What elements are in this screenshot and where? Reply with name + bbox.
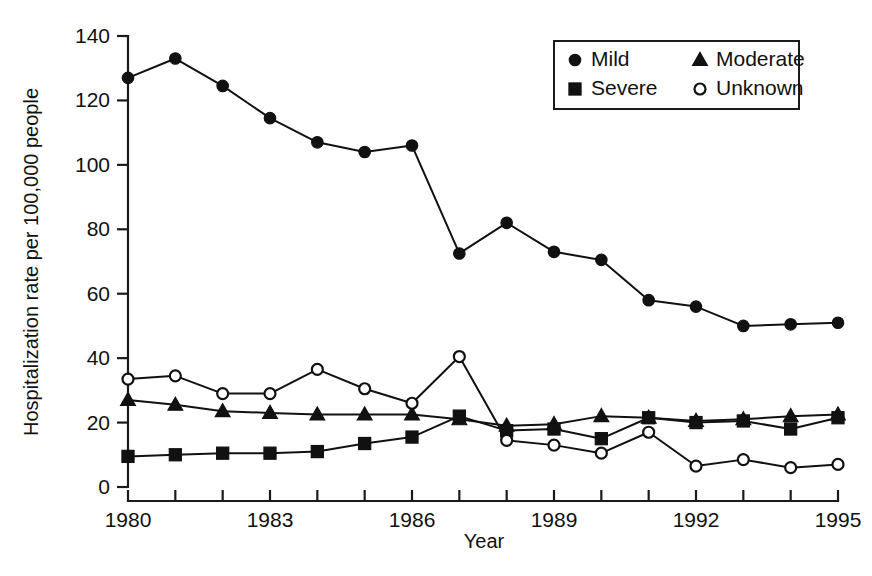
marker-filled-square xyxy=(832,412,844,424)
marker-filled-square xyxy=(785,423,797,435)
marker-open-circle xyxy=(217,388,228,399)
marker-open-circle xyxy=(501,435,512,446)
marker-open-circle xyxy=(312,364,323,375)
legend-item-severe[interactable] xyxy=(569,83,581,95)
x-tick-label: 1980 xyxy=(105,508,152,531)
marker-filled-square xyxy=(690,417,702,429)
marker-filled-square xyxy=(122,450,134,462)
marker-filled-circle xyxy=(454,248,465,259)
y-axis-ticks xyxy=(117,36,128,487)
marker-filled-square xyxy=(569,83,581,95)
marker-filled-circle xyxy=(406,140,417,151)
marker-filled-circle xyxy=(359,146,370,157)
marker-filled-circle xyxy=(122,72,133,83)
marker-filled-circle xyxy=(643,294,654,305)
x-axis-tick-labels: 198019831986198919921995 xyxy=(105,508,862,531)
marker-open-circle xyxy=(695,84,706,95)
x-tick-label: 1983 xyxy=(247,508,294,531)
marker-filled-square xyxy=(453,410,465,422)
marker-filled-circle xyxy=(548,246,559,257)
y-tick-label: 40 xyxy=(87,346,110,369)
x-tick-label: 1995 xyxy=(815,508,862,531)
x-axis-title: Year xyxy=(464,530,505,552)
marker-filled-square xyxy=(737,415,749,427)
marker-filled-square xyxy=(548,423,560,435)
marker-filled-square xyxy=(311,446,323,458)
line-chart-canvas: 020406080100120140 198019831986198919921… xyxy=(0,0,872,576)
marker-filled-circle xyxy=(264,112,275,123)
y-tick-label: 60 xyxy=(87,282,110,305)
y-axis-title: Hospitalization rate per 100,000 people xyxy=(20,88,42,436)
marker-open-circle xyxy=(123,374,134,385)
marker-filled-circle xyxy=(596,254,607,265)
marker-filled-triangle xyxy=(121,392,136,405)
marker-open-circle xyxy=(785,462,796,473)
marker-open-circle xyxy=(359,383,370,394)
marker-filled-circle xyxy=(785,319,796,330)
y-tick-label: 100 xyxy=(75,153,110,176)
legend-label-moderate: Moderate xyxy=(716,47,805,70)
series-severe xyxy=(122,410,844,462)
data-series-group xyxy=(121,53,846,473)
y-tick-label: 140 xyxy=(75,24,110,47)
y-tick-label: 20 xyxy=(87,411,110,434)
marker-open-circle xyxy=(833,459,844,470)
marker-filled-square xyxy=(264,447,276,459)
marker-filled-square xyxy=(359,437,371,449)
legend-label-unknown: Unknown xyxy=(716,76,804,99)
y-axis-tick-labels: 020406080100120140 xyxy=(75,24,110,498)
marker-open-circle xyxy=(643,427,654,438)
marker-filled-square xyxy=(643,412,655,424)
y-tick-label: 80 xyxy=(87,217,110,240)
marker-open-circle xyxy=(407,398,418,409)
x-tick-label: 1992 xyxy=(673,508,720,531)
marker-filled-triangle xyxy=(594,408,609,421)
marker-open-circle xyxy=(549,440,560,451)
marker-open-circle xyxy=(265,388,276,399)
marker-filled-circle xyxy=(690,301,701,312)
marker-open-circle xyxy=(738,454,749,465)
marker-filled-circle xyxy=(312,137,323,148)
marker-filled-circle xyxy=(569,54,580,65)
x-axis-ticks xyxy=(128,490,838,501)
y-tick-label: 120 xyxy=(75,88,110,111)
x-tick-label: 1989 xyxy=(531,508,578,531)
marker-filled-square xyxy=(406,431,418,443)
marker-open-circle xyxy=(170,370,181,381)
marker-open-circle xyxy=(454,351,465,362)
marker-filled-triangle xyxy=(357,407,372,420)
legend-item-mild[interactable] xyxy=(569,54,580,65)
marker-filled-circle xyxy=(501,217,512,228)
marker-filled-circle xyxy=(832,317,843,328)
legend-item-unknown[interactable] xyxy=(695,84,706,95)
marker-open-circle xyxy=(691,461,702,472)
marker-filled-circle xyxy=(170,53,181,64)
chart-figure: 020406080100120140 198019831986198919921… xyxy=(0,0,872,576)
marker-filled-circle xyxy=(738,320,749,331)
legend: MildModerateSevereUnknown xyxy=(554,41,805,109)
x-tick-label: 1986 xyxy=(389,508,436,531)
marker-filled-square xyxy=(169,449,181,461)
marker-open-circle xyxy=(596,448,607,459)
legend-label-mild: Mild xyxy=(591,47,630,70)
marker-filled-square xyxy=(217,447,229,459)
y-tick-label: 0 xyxy=(98,475,110,498)
marker-filled-circle xyxy=(217,80,228,91)
legend-label-severe: Severe xyxy=(591,76,658,99)
marker-filled-square xyxy=(595,433,607,445)
